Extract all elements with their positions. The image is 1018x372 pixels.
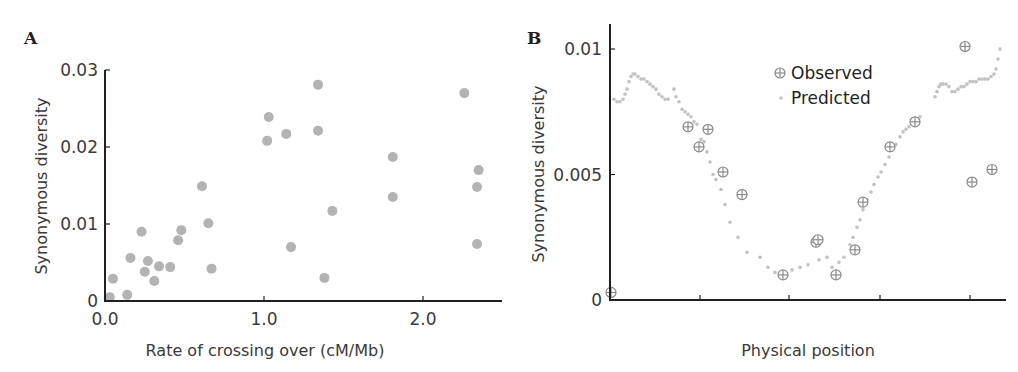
observed-point: [850, 245, 860, 255]
predicted-point: [705, 150, 709, 154]
data-point: [108, 274, 118, 284]
data-point: [207, 264, 217, 274]
data-point: [388, 192, 398, 202]
data-point: [176, 225, 186, 235]
predicted-point: [723, 203, 727, 207]
predicted-point: [935, 90, 939, 94]
predicted-point: [648, 82, 652, 86]
predicted-point: [962, 85, 966, 89]
x-tick-label: 2.0: [409, 309, 436, 329]
panel-b-y-axis-label: Synonymous diversity: [529, 85, 548, 262]
predicted-point: [825, 256, 829, 260]
observed-point: [885, 142, 895, 152]
predicted-point: [947, 85, 951, 89]
predicted-point: [642, 77, 646, 81]
observed-point: [967, 177, 977, 187]
predicted-point: [672, 87, 676, 91]
y-tick-label: 0.03: [60, 60, 98, 80]
data-point: [319, 273, 329, 283]
data-point: [327, 206, 337, 216]
predicted-point: [645, 80, 649, 84]
predicted-point: [654, 87, 658, 91]
predicted-point: [625, 87, 629, 91]
predicted-point: [689, 115, 693, 119]
y-tick-label: 0: [87, 291, 98, 311]
data-point: [472, 182, 482, 192]
panel-a-label: A: [23, 28, 38, 48]
predicted-point: [674, 95, 678, 99]
predicted-point: [887, 155, 891, 159]
predicted-point: [858, 218, 862, 222]
predicted-point: [711, 173, 715, 177]
observed-point: [737, 190, 747, 200]
observed-point: [694, 142, 704, 152]
data-point: [388, 152, 398, 162]
y-tick-label: 0.01: [564, 39, 602, 59]
observed-point: [910, 117, 920, 127]
predicted-point: [657, 92, 661, 96]
y-tick-label: 0.005: [553, 165, 602, 185]
data-point: [264, 112, 274, 122]
observed-point: [778, 270, 788, 280]
panel-b-label: B: [527, 28, 541, 48]
predicted-point: [901, 130, 905, 134]
predicted-point: [965, 82, 969, 86]
data-point: [165, 262, 175, 272]
predicted-point: [989, 75, 993, 79]
panel-a-x-axis-label: Rate of crossing over (cM/Mb): [146, 341, 385, 360]
predicted-point: [745, 251, 749, 255]
panel-a-ticks: 00.010.020.030.01.02.0: [60, 60, 436, 329]
data-point: [143, 256, 153, 266]
predicted-point: [680, 107, 684, 111]
predicted-point: [728, 220, 732, 224]
predicted-point: [695, 123, 699, 127]
figure: A Synonymous diversity Rate of crossing …: [0, 0, 1018, 372]
predicted-point: [851, 235, 855, 239]
predicted-point: [612, 97, 616, 101]
data-point: [149, 276, 159, 286]
observed-point: [858, 197, 868, 207]
data-point: [459, 88, 469, 98]
data-point: [474, 165, 484, 175]
y-tick-label: 0.01: [60, 214, 98, 234]
predicted-point: [666, 97, 670, 101]
data-point: [125, 253, 135, 263]
predicted-point: [986, 77, 990, 81]
data-point: [203, 218, 213, 228]
predicted-point: [766, 266, 770, 270]
observed-point: [813, 235, 823, 245]
predicted-point: [974, 80, 978, 84]
predicted-point: [618, 100, 622, 104]
predicted-point: [736, 235, 740, 239]
predicted-point: [876, 175, 880, 179]
data-point: [313, 126, 323, 136]
y-tick-label: 0: [591, 290, 602, 310]
predicted-point: [692, 120, 696, 124]
predicted-point: [994, 67, 998, 71]
predicted-point: [879, 170, 883, 174]
data-point: [154, 261, 164, 271]
predicted-point: [677, 100, 681, 104]
legend: Observed Predicted: [775, 63, 873, 108]
predicted-point: [817, 258, 821, 262]
panel-a-axes: [105, 70, 502, 301]
panel-a-y-axis-label: Synonymous diversity: [32, 97, 51, 274]
data-point: [472, 239, 482, 249]
data-point: [173, 235, 183, 245]
predicted-point: [651, 85, 655, 89]
legend-observed-label: Observed: [791, 63, 873, 83]
predicted-point: [861, 208, 865, 212]
predicted-point: [806, 263, 810, 267]
observed-point: [960, 41, 970, 51]
data-point: [197, 181, 207, 191]
predicted-point: [953, 90, 957, 94]
observed-point: [703, 124, 713, 134]
predicted-point: [627, 80, 631, 84]
predicted-point: [996, 57, 1000, 61]
predicted-point: [933, 95, 937, 99]
observed-point: [718, 167, 728, 177]
predicted-marker-icon: [779, 96, 783, 100]
observed-point: [831, 270, 841, 280]
predicted-point: [686, 112, 690, 116]
data-point: [262, 136, 272, 146]
